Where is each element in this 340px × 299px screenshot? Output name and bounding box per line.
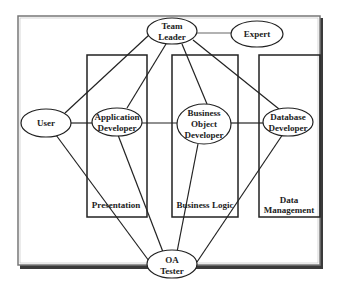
node-label: Application <box>94 112 139 122</box>
node-label: Team <box>161 21 183 31</box>
node-label: Expert <box>244 29 271 39</box>
node-label: OA <box>165 255 179 265</box>
node-label: Developer <box>98 123 137 133</box>
node-application-developer: Application Developer <box>92 108 142 136</box>
node-label: Tester <box>160 266 184 276</box>
layer-label-data-management: Data <box>280 195 299 205</box>
layer-label-data-management: Management <box>264 205 315 215</box>
outer-frame <box>18 16 320 265</box>
layer-label-presentation: Presentation <box>92 200 140 210</box>
node-label: Database <box>270 112 306 122</box>
node-qa-tester: OA Tester <box>147 250 197 278</box>
node-expert: Expert <box>231 21 283 47</box>
node-label: Developer <box>269 123 308 133</box>
node-label: User <box>37 118 55 128</box>
node-business-object-developer: Business Object Developer <box>177 104 231 144</box>
node-label: Business <box>187 108 221 118</box>
team-structure-diagram: Team Leader Expert User Application Deve… <box>0 0 340 299</box>
node-team-leader: Team Leader <box>147 18 197 44</box>
node-database-developer: Database Developer <box>263 108 313 136</box>
node-label: Leader <box>158 32 186 42</box>
node-label: Developer <box>185 130 224 140</box>
node-label: Object <box>191 119 217 129</box>
node-user: User <box>21 109 71 137</box>
layer-label-business-logic: Business Logic <box>177 200 234 210</box>
